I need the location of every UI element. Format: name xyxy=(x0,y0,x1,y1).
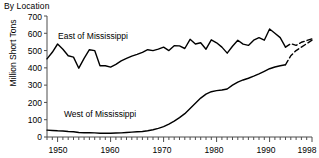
axes xyxy=(47,16,312,137)
series-line-west xyxy=(47,65,286,133)
chart-figure: By Location Million Short Tons 700 600 5… xyxy=(0,0,319,158)
series-line-east xyxy=(47,29,286,68)
data-series-group xyxy=(47,29,312,133)
plot-area xyxy=(0,0,319,158)
x-axis-ticks xyxy=(47,137,312,142)
